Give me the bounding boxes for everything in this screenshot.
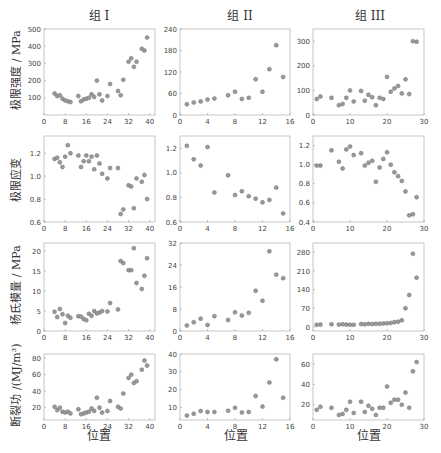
scatter-panel: 01020300.40.60.81.01.2 bbox=[299, 136, 429, 233]
column-title-group-3: 组 III bbox=[355, 9, 385, 23]
data-point bbox=[105, 176, 109, 180]
data-point bbox=[121, 261, 125, 265]
data-point bbox=[274, 273, 278, 277]
data-point bbox=[135, 60, 139, 64]
data-point bbox=[415, 360, 419, 364]
data-point bbox=[344, 408, 348, 412]
x-tick-label: 40 bbox=[145, 118, 154, 126]
data-point bbox=[396, 174, 400, 178]
y-tick-label: 80 bbox=[32, 355, 41, 363]
data-point bbox=[142, 359, 146, 363]
data-point bbox=[233, 406, 237, 410]
data-point bbox=[212, 410, 216, 414]
data-point bbox=[337, 323, 341, 327]
scatter-panel: 048121608162432 bbox=[168, 240, 295, 343]
data-point bbox=[100, 172, 104, 176]
y-tick-label: 1.2 bbox=[299, 142, 310, 150]
data-point bbox=[129, 184, 133, 188]
data-point bbox=[90, 155, 94, 159]
y-tick-label: 40 bbox=[168, 351, 177, 359]
data-point bbox=[226, 173, 230, 177]
data-point bbox=[389, 163, 393, 167]
data-point bbox=[233, 90, 237, 94]
x-tick-label: 30 bbox=[420, 423, 429, 431]
y-tick-label: 0 bbox=[306, 112, 310, 120]
data-point bbox=[281, 276, 285, 280]
y-tick-label: 10 bbox=[168, 404, 177, 412]
x-tick-label: 0 bbox=[42, 118, 46, 126]
data-point bbox=[226, 409, 230, 413]
data-point bbox=[119, 93, 123, 97]
y-tick-label: 120 bbox=[164, 69, 177, 77]
data-point bbox=[135, 281, 139, 285]
data-point bbox=[61, 165, 65, 169]
data-point bbox=[129, 373, 133, 377]
data-point bbox=[108, 399, 112, 403]
data-point bbox=[378, 406, 382, 410]
x-tick-label: 0 bbox=[311, 423, 315, 431]
data-point bbox=[132, 206, 136, 210]
data-point bbox=[281, 75, 285, 79]
plot-frame bbox=[313, 243, 424, 331]
panels-container: 0816243240100200300400500048121606012018… bbox=[28, 26, 429, 432]
x-tick-label: 30 bbox=[420, 334, 429, 342]
data-point bbox=[185, 144, 189, 148]
data-point bbox=[119, 212, 123, 216]
data-point bbox=[389, 401, 393, 405]
data-point bbox=[58, 307, 62, 311]
x-tick-label: 12 bbox=[258, 334, 267, 342]
data-point bbox=[404, 391, 408, 395]
data-point bbox=[92, 167, 96, 171]
data-point bbox=[344, 323, 348, 327]
data-point bbox=[363, 322, 367, 326]
data-point bbox=[367, 161, 371, 165]
y-tick-label: 20 bbox=[301, 401, 310, 409]
data-point bbox=[90, 314, 94, 318]
data-point bbox=[411, 39, 415, 43]
x-tick-label: 0 bbox=[311, 334, 315, 342]
data-point bbox=[370, 407, 374, 411]
data-point bbox=[247, 410, 251, 414]
y-tick-label: 16 bbox=[168, 284, 177, 292]
data-point bbox=[240, 314, 244, 318]
data-point bbox=[212, 191, 216, 195]
data-point bbox=[415, 195, 419, 199]
data-point bbox=[359, 322, 363, 326]
scatter-panel: 081624324005101520 bbox=[32, 243, 155, 342]
x-tick-label: 0 bbox=[178, 118, 182, 126]
data-point bbox=[87, 96, 91, 100]
data-point bbox=[206, 410, 210, 414]
plot-frame bbox=[180, 243, 290, 331]
x-tick-label: 10 bbox=[346, 334, 355, 342]
data-point bbox=[374, 413, 378, 417]
scatter-panel: 048121610203040 bbox=[168, 351, 295, 432]
data-point bbox=[100, 98, 104, 102]
plot-frame bbox=[44, 29, 155, 115]
y-tick-label: 0.6 bbox=[166, 219, 178, 227]
data-point bbox=[261, 200, 265, 204]
data-point bbox=[121, 207, 125, 211]
x-tick-label: 16 bbox=[286, 334, 295, 342]
data-point bbox=[404, 306, 408, 310]
data-point bbox=[359, 89, 363, 93]
x-tick-label: 30 bbox=[420, 118, 429, 126]
data-point bbox=[145, 364, 149, 368]
y-tick-label: 300 bbox=[297, 38, 310, 46]
data-point bbox=[374, 180, 378, 184]
data-point bbox=[407, 406, 411, 410]
data-point bbox=[370, 322, 374, 326]
data-point bbox=[127, 376, 131, 380]
data-point bbox=[127, 60, 131, 64]
y-tick-label: 24 bbox=[168, 262, 177, 270]
y-tick-label: 60 bbox=[301, 361, 310, 369]
data-point bbox=[76, 94, 80, 98]
data-point bbox=[392, 320, 396, 324]
y-tick-label: 500 bbox=[28, 26, 41, 34]
data-point bbox=[82, 159, 86, 163]
x-tick-label: 8 bbox=[233, 118, 237, 126]
x-tick-label: 24 bbox=[103, 423, 112, 431]
data-point bbox=[84, 153, 88, 157]
x-tick-label: 16 bbox=[82, 423, 91, 431]
data-point bbox=[84, 318, 88, 322]
data-point bbox=[400, 318, 404, 322]
